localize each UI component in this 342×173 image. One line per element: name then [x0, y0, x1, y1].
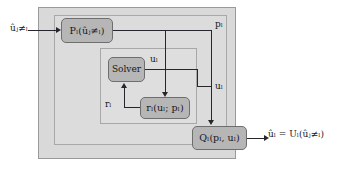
solver-node[interactable]: Solver	[108, 57, 145, 82]
edge-feedback-vertical	[124, 88, 125, 107]
u-l-output-label: uₗ	[215, 82, 223, 91]
output-expression-label: ûₗ = Uₗ(ûⱼ≠ₗ)	[268, 130, 324, 139]
edge-precompute-to-pbus	[113, 30, 211, 31]
residual-node[interactable]: rₗ(uₗ; pₗ)	[140, 97, 190, 119]
arrowhead-feedback-to-solver	[121, 83, 127, 88]
precompute-node[interactable]: Pₗ(ûⱼ≠ₗ)	[61, 18, 113, 43]
input-label: ûⱼ≠ₗ	[10, 24, 28, 33]
edge-residual-to-feedback	[124, 107, 141, 108]
edge-input-to-precompute	[28, 30, 56, 31]
arrowhead-ubus-to-output	[208, 120, 214, 125]
edge-ubus-down-to-output	[211, 86, 212, 120]
edge-pbus-vertical	[211, 30, 212, 86]
edge-output-to-result	[247, 138, 264, 139]
edge-pbus-branch-vertical	[165, 30, 166, 92]
diagram-canvas: Pₗ(ûⱼ≠ₗ) Solver rₗ(uₗ; pₗ) Qₗ(pₗ, uₗ) ûⱼ…	[0, 0, 342, 173]
edge-ubus-to-right	[197, 86, 211, 87]
output-node[interactable]: Qₗ(pₗ, uₗ)	[192, 126, 247, 150]
edge-ubus-corner-vertical	[197, 69, 198, 86]
edge-solver-to-ubus	[145, 69, 197, 70]
r-l-label: rₗ	[105, 100, 112, 109]
p-l-label: pₗ	[215, 20, 223, 29]
u-l-solver-label: uₗ	[150, 55, 158, 64]
